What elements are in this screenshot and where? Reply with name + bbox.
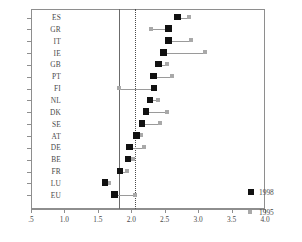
y-axis-tick [27, 160, 31, 161]
x-axis-tick-label: 3.5 [217, 215, 247, 225]
x-axis-tick-label: .5 [16, 215, 46, 225]
y-axis-tick [27, 100, 31, 101]
data-point-1998-at [133, 132, 140, 139]
data-row: IT [0, 36, 302, 48]
data-point-1995-dk [165, 110, 169, 114]
x-axis-tick-label: 3.0 [183, 215, 213, 225]
x-axis-tick-label: 1.0 [49, 215, 79, 225]
data-row: PT [0, 71, 302, 83]
data-point-1998-es [174, 14, 181, 21]
y-axis-tick [27, 183, 31, 184]
legend-swatch-icon [248, 189, 254, 195]
x-axis-tick [64, 209, 65, 213]
x-axis-tick [131, 209, 132, 213]
data-point-1995-fr [125, 169, 129, 173]
y-axis-tick [27, 65, 31, 66]
data-row: GR [0, 24, 302, 36]
data-point-1995-ie [203, 50, 207, 54]
y-axis-tick [27, 53, 31, 54]
data-row: DE [0, 142, 302, 154]
y-axis-tick [27, 124, 31, 125]
data-point-1995-be [131, 157, 135, 161]
data-point-1998-se [139, 120, 146, 127]
data-row: AT [0, 131, 302, 143]
y-axis-tick [27, 89, 31, 90]
data-point-1998-de [126, 144, 133, 151]
data-row: ES [0, 12, 302, 24]
connector-line [169, 41, 192, 42]
legend-swatch-icon [248, 210, 252, 214]
x-axis-tick [98, 209, 99, 213]
data-row: SE [0, 119, 302, 131]
data-point-1998-fi [151, 85, 158, 92]
data-row: FR [0, 166, 302, 178]
legend-entry-1995: 1995 [248, 206, 302, 220]
data-point-1998-eu [111, 191, 118, 198]
data-point-1995-it [189, 38, 193, 42]
x-axis-tick-label: 2.5 [150, 215, 180, 225]
y-axis-tick [27, 41, 31, 42]
data-point-1998-pt [150, 73, 157, 80]
data-point-1995-gr [149, 27, 153, 31]
chart-container: ESGRITIEGBPTFINLDKSEATDEBEFRLUEU .51.01.… [0, 0, 302, 242]
data-point-1995-fi [117, 86, 121, 90]
legend-label: 1998 [259, 186, 274, 199]
data-point-1998-gr [165, 25, 172, 32]
y-axis-tick [27, 195, 31, 196]
data-point-1995-de [142, 145, 146, 149]
data-point-1995-es [187, 15, 191, 19]
legend-label: 1995 [259, 206, 274, 219]
y-axis-tick [27, 148, 31, 149]
data-row: FI [0, 83, 302, 95]
x-axis-tick [165, 209, 166, 213]
x-axis-tick [31, 209, 32, 213]
data-row: NL [0, 95, 302, 107]
x-axis-tick-label: 1.5 [83, 215, 113, 225]
data-row: DK [0, 107, 302, 119]
connector-line [119, 89, 154, 90]
data-point-1995-nl [156, 98, 160, 102]
data-row: BE [0, 154, 302, 166]
data-row: IE [0, 48, 302, 60]
y-axis-tick [27, 136, 31, 137]
x-axis-tick [198, 209, 199, 213]
y-axis-tick [27, 77, 31, 78]
data-row: GB [0, 59, 302, 71]
x-axis-tick-label: 2.0 [116, 215, 146, 225]
x-axis-line [31, 209, 265, 210]
data-point-1998-be [125, 156, 132, 163]
data-point-1995-se [158, 121, 162, 125]
y-axis-tick [27, 172, 31, 173]
data-point-1995-pt [170, 74, 174, 78]
data-point-1998-ie [160, 49, 167, 56]
data-point-1998-nl [147, 97, 154, 104]
data-point-1998-dk [143, 108, 150, 115]
chart-legend: 19981995 [248, 186, 302, 220]
data-point-1995-eu [133, 193, 137, 197]
data-point-1995-gb [165, 62, 169, 66]
data-point-1998-it [165, 37, 172, 44]
data-point-1998-gb [155, 61, 162, 68]
legend-entry-1998: 1998 [248, 186, 302, 200]
data-point-1998-fr [117, 168, 124, 175]
x-axis-tick [232, 209, 233, 213]
data-point-1998-lu [102, 179, 109, 186]
connector-line [163, 53, 205, 54]
y-axis-tick [27, 18, 31, 19]
y-axis-tick [27, 112, 31, 113]
y-axis-tick [27, 29, 31, 30]
